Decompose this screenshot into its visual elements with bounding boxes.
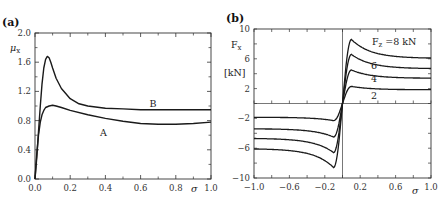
x-tick-label: 0.6 [389,182,403,192]
y-tick-label: 0.8 [17,116,31,126]
y-tick-label: 2.0 [17,28,31,38]
curve-label-4: 4 [371,73,377,84]
curve-label-2: 2 [371,90,377,101]
y-tick-label: 1.2 [17,86,31,96]
figure: 0.00.20.40.60.81.00.00.40.81.21.62.0(a)μ… [0,0,448,205]
y-tick-label: −6 [237,143,250,153]
y-axis-label: μx [10,42,20,55]
x-tick-label: 1.0 [424,182,438,192]
curve-B [35,56,211,179]
x-tick-label: 0.2 [63,183,77,193]
chart-a-frame [35,33,211,179]
x-tick-label: 0.8 [169,183,183,193]
y-axis-label: Fx [231,39,242,52]
y-tick-label: 0.4 [17,145,31,155]
x-tick-label: 0.2 [353,182,367,192]
x-tick-label: 0.6 [134,183,148,193]
y-tick-label: −2 [237,113,250,123]
x-tick-label: 1.0 [204,183,218,193]
y-tick-label: 1.6 [17,57,31,67]
curve-A [35,105,211,179]
chart-b: −1.0−0.6−0.20.20.61.0−10−6−22610(b)Fx[kN… [224,12,438,196]
curve-label-6: 6 [371,60,377,71]
x-tick-label: −0.2 [314,182,335,192]
y-tick-label: 2 [245,84,250,94]
x-tick-label: −1.0 [244,182,265,192]
x-tick-label: 0.0 [28,183,42,193]
x-tick-label: 0.4 [99,183,113,193]
chart-a: 0.00.20.40.60.81.00.00.40.81.21.62.0(a)μ… [2,16,218,194]
y-tick-label: 6 [245,54,250,64]
y-tick-label: 10 [239,24,250,34]
x-axis-label: σ [191,183,198,194]
x-axis-label: σ [412,185,419,196]
y-tick-label: 0.0 [17,174,31,184]
fz-annotation: Fz =8 kN [372,36,416,49]
x-tick-label: −0.6 [279,182,300,192]
panel-label-a: (a) [2,16,20,29]
y-axis-unit: [kN] [224,67,245,78]
curve-label-B: B [149,98,156,109]
panel-label-b: (b) [226,12,244,25]
curve-label-A: A [99,127,107,138]
y-tick-label: −10 [232,173,250,183]
